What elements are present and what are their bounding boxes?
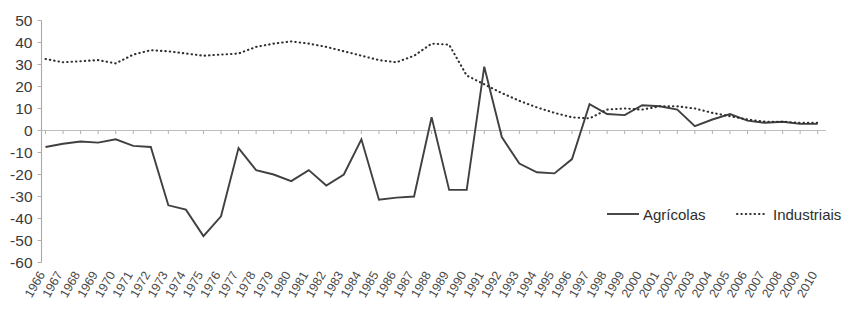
legend-label: Agrícolas bbox=[643, 206, 706, 223]
y-axis-tick-label: 10 bbox=[15, 100, 33, 117]
y-axis-tick-label: 40 bbox=[15, 34, 33, 51]
legend-label: Industriais bbox=[773, 206, 841, 223]
series-line-industriais bbox=[46, 41, 818, 122]
y-axis-tick-label: 0 bbox=[24, 122, 33, 139]
y-axis-tick-label: -40 bbox=[10, 210, 33, 227]
y-axis-tick-label: -10 bbox=[10, 144, 33, 161]
y-axis: 50403020100-10-20-30-40-50-60 bbox=[10, 12, 41, 271]
line-chart: 50403020100-10-20-30-40-50-60 1966196719… bbox=[0, 0, 849, 313]
chart-legend: AgrícolasIndustriais bbox=[607, 206, 841, 223]
y-axis-tick-label: -20 bbox=[10, 166, 33, 183]
y-axis-tick-label: -30 bbox=[10, 188, 33, 205]
chart-container: 50403020100-10-20-30-40-50-60 1966196719… bbox=[0, 0, 849, 313]
y-axis-tick-label: -60 bbox=[10, 254, 33, 271]
y-axis-tick-label: 30 bbox=[15, 56, 33, 73]
y-axis-tick-label: 50 bbox=[15, 12, 33, 29]
y-axis-tick-label: -50 bbox=[10, 232, 33, 249]
y-axis-tick-label: 20 bbox=[15, 78, 33, 95]
